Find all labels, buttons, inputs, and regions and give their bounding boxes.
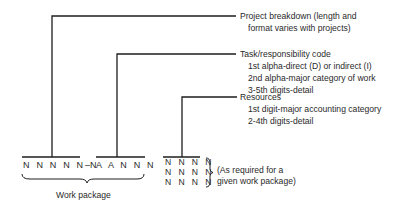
work-package-label: Work package: [56, 189, 111, 201]
task-connector: [117, 54, 236, 157]
task-label-line2: 2nd alpha-major category of work: [248, 72, 376, 84]
task-label-title: Task/responsibility code: [240, 48, 331, 60]
resources-label-line1: 1st digit-major accounting category: [248, 103, 381, 115]
task-label-line1: 1st alpha-direct (D) or indirect (I): [248, 60, 372, 72]
work-package-brace: [22, 174, 144, 183]
resources-label-line2: 2-4th digits-detail: [248, 115, 313, 127]
resource-grid-note-line2: given work package): [217, 175, 296, 187]
project-label-line2: format varies with projects): [248, 22, 351, 34]
resources-connector: [182, 97, 237, 157]
resource-grid-row-2: N N N N: [165, 167, 214, 177]
code-separator: –: [85, 160, 92, 170]
resource-grid-row-3: N N N N: [165, 177, 214, 187]
project-connector: [52, 16, 236, 157]
resource-grid-row-1: N N N N: [165, 157, 214, 167]
project-label-line1: Project breakdown (length and: [240, 10, 357, 22]
resources-label-title: Resources: [240, 91, 281, 103]
task-code-part: A A N N N: [96, 160, 156, 170]
